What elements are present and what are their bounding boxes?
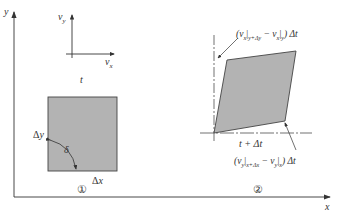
time-label-t: t — [80, 74, 83, 85]
dx-label: Δx — [92, 175, 103, 186]
top-shear-annotation: (vx|y+Δy − vx|y) Δt — [236, 29, 298, 41]
velocity-axes: vy vx — [58, 11, 114, 70]
dy-label: Δy — [33, 129, 44, 140]
top-annotation-pointer — [218, 38, 238, 58]
deformed-parallelogram — [214, 51, 296, 133]
vx-label: vx — [105, 56, 113, 70]
time-label-t-plus-dt: t + Δt — [239, 138, 262, 149]
state-2-marker: ② — [253, 183, 263, 195]
undeformed-square — [48, 97, 117, 171]
state-1-element: t δ Δy Δx ① — [33, 74, 117, 195]
state-2-element: t + Δt ② (vx|y+Δy − vx|y) Δt (vy|x+Δx − … — [200, 29, 312, 195]
bottom-shear-annotation: (vy|x+Δx − vy|x) Δt — [234, 156, 296, 168]
bottom-annotation-pointer — [285, 123, 296, 150]
vy-label: vy — [58, 11, 66, 25]
y-axis-label: y — [3, 6, 9, 17]
x-axis-label: x — [324, 201, 330, 212]
state-1-marker: ① — [77, 183, 87, 195]
deformation-diagram: y x vy vx t δ Δy Δx ① t + Δt ② (vx|y+Δy … — [0, 0, 346, 215]
delta-angle-label: δ — [64, 144, 69, 155]
